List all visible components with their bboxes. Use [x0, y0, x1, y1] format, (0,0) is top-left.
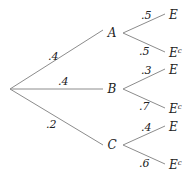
node-c-ec: Ec: [168, 158, 182, 172]
prob-label-a-e: .5: [141, 9, 152, 22]
prob-label-b-e: .3: [141, 64, 152, 77]
complement-superscript: c: [178, 103, 182, 111]
complement-superscript: c: [178, 47, 182, 55]
branch-c: [10, 89, 103, 145]
prob-label-a: .4: [48, 50, 59, 63]
complement-superscript: c: [178, 159, 182, 167]
prob-label-b: .4: [58, 75, 69, 88]
node-b: B: [107, 82, 117, 96]
node-a-e: E: [168, 8, 178, 22]
node-c: C: [107, 138, 116, 152]
prob-label-c-ec: .6: [139, 157, 150, 170]
prob-label-c: .2: [46, 118, 57, 131]
probability-tree: .4A.4B.2C.5E.5Ec.3E.7Ec.4E.6Ec: [0, 0, 189, 179]
prob-label-b-ec: .7: [139, 100, 150, 113]
prob-label-c-e: .4: [141, 121, 152, 134]
prob-label-a-ec: .5: [139, 45, 150, 58]
node-a-ec: Ec: [168, 46, 182, 60]
node-b-e: E: [168, 63, 178, 77]
node-b-ec: Ec: [168, 102, 182, 116]
node-c-e: E: [168, 120, 178, 134]
node-a: A: [107, 26, 117, 40]
